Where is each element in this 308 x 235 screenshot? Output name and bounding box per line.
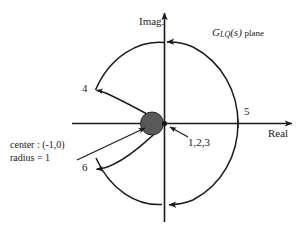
leader-line-to-disk — [77, 128, 145, 160]
point-label-5: 5 — [244, 106, 250, 117]
outer-arc-upper-left — [96, 42, 165, 90]
plane-label: GLQ(s) plane — [212, 27, 264, 39]
plane-symbol-argument: (s) — [230, 26, 242, 38]
inner-arc-upper-arrow-segment — [97, 90, 106, 93]
center-note: center : (-1,0) — [10, 140, 65, 150]
point-label-6: 6 — [82, 162, 88, 173]
real-axis-label: Real — [268, 128, 288, 139]
outer-arc-lower-arrow-segment — [169, 200, 193, 205]
point-label-123: 1,2,3 — [188, 137, 210, 148]
outer-arc-lower-right — [193, 124, 238, 201]
outer-arc-upper-arrow-segment — [167, 42, 193, 47]
leader-line-to-origin — [170, 127, 188, 137]
origin-marker — [162, 121, 167, 126]
unit-disk — [141, 112, 164, 135]
nyquist-plot-figure: Imag. Real GLQ(s) plane 4 5 6 1,2,3 cent… — [0, 0, 308, 235]
imaginary-axis-label: Imag. — [139, 16, 164, 27]
radius-note: radius = 1 — [10, 153, 50, 163]
point-label-4: 4 — [82, 83, 88, 94]
outer-arc-upper-right — [193, 47, 238, 124]
plane-word: plane — [245, 28, 265, 38]
plane-symbol-subscript: LQ — [220, 30, 230, 39]
plane-symbol-main: G — [212, 26, 220, 38]
outer-arc-lower-left — [96, 158, 162, 205]
